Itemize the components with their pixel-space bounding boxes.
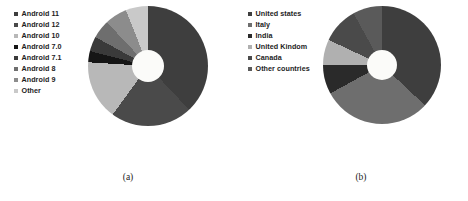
legend-item-label: Canada xyxy=(256,53,282,63)
legend-panel-b: United statesItalyIndiaUnited KindomCana… xyxy=(248,9,310,74)
legend-swatch-icon xyxy=(14,89,18,93)
legend-item[interactable]: Other xyxy=(14,86,62,96)
donut-chart-b-wrapper xyxy=(323,6,441,124)
legend-item-label: Italy xyxy=(256,20,271,30)
legend-item[interactable]: Android 7.1 xyxy=(14,53,62,63)
legend-item[interactable]: Android 8 xyxy=(14,64,62,74)
legend-swatch-icon xyxy=(14,56,18,60)
legend-item[interactable]: Canada xyxy=(248,53,310,63)
legend-item[interactable]: United Kindom xyxy=(248,42,310,52)
caption-b: (b) xyxy=(341,172,381,182)
legend-item[interactable]: Android 10 xyxy=(14,31,62,41)
legend-swatch-icon xyxy=(14,78,18,82)
legend-swatch-icon xyxy=(248,56,252,60)
legend-item[interactable]: United states xyxy=(248,9,310,19)
legend-swatch-icon xyxy=(14,67,18,71)
legend-item[interactable]: Android 9 xyxy=(14,75,62,85)
legend-swatch-icon xyxy=(14,34,18,38)
donut-chart-a-wrapper xyxy=(88,6,208,126)
legend-item-label: India xyxy=(256,31,273,41)
legend-swatch-icon xyxy=(248,34,252,38)
panel-b: United statesItalyIndiaUnited KindomCana… xyxy=(234,0,468,201)
caption-a: (a) xyxy=(108,172,148,182)
figure-two-pie-charts: Android 11Android 12Android 10Android 7.… xyxy=(0,0,468,201)
legend-swatch-icon xyxy=(14,45,18,49)
donut-chart-a xyxy=(88,6,208,126)
panel-a: Android 11Android 12Android 10Android 7.… xyxy=(0,0,234,201)
donut-chart-b xyxy=(323,6,441,124)
legend-item-label: Android 11 xyxy=(22,9,60,19)
donut-hole-b xyxy=(367,50,397,80)
legend-item[interactable]: Italy xyxy=(248,20,310,30)
donut-hole-a xyxy=(132,50,164,82)
legend-swatch-icon xyxy=(14,12,18,16)
legend-item[interactable]: Android 7.0 xyxy=(14,42,62,52)
legend-swatch-icon xyxy=(248,23,252,27)
legend-swatch-icon xyxy=(248,67,252,71)
legend-item-label: United Kindom xyxy=(256,42,308,52)
legend-item-label: Android 8 xyxy=(22,64,56,74)
legend-item[interactable]: Other countries xyxy=(248,64,310,74)
legend-swatch-icon xyxy=(14,23,18,27)
legend-item-label: United states xyxy=(256,9,302,19)
legend-item-label: Other countries xyxy=(256,64,310,74)
legend-item-label: Other xyxy=(22,86,41,96)
legend-item[interactable]: India xyxy=(248,31,310,41)
legend-item-label: Android 12 xyxy=(22,20,60,30)
legend-item-label: Android 9 xyxy=(22,75,56,85)
legend-item[interactable]: Android 11 xyxy=(14,9,62,19)
legend-item[interactable]: Android 12 xyxy=(14,20,62,30)
legend-item-label: Android 7.1 xyxy=(22,53,62,63)
legend-panel-a: Android 11Android 12Android 10Android 7.… xyxy=(14,9,62,96)
legend-item-label: Android 10 xyxy=(22,31,60,41)
legend-swatch-icon xyxy=(248,45,252,49)
legend-swatch-icon xyxy=(248,12,252,16)
legend-item-label: Android 7.0 xyxy=(22,42,62,52)
